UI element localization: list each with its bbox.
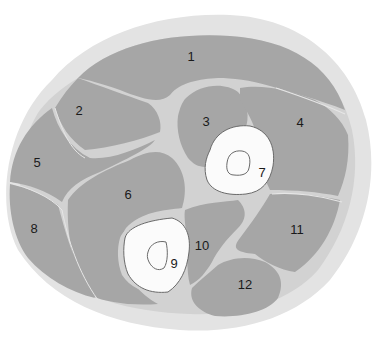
cross-section-diagram: 1 2 3 4 5 6 7 8 9 10 11 12 [0, 0, 380, 338]
label-3: 3 [202, 114, 209, 129]
label-12: 12 [238, 277, 252, 292]
label-2: 2 [75, 103, 82, 118]
label-6: 6 [124, 187, 131, 202]
diagram-canvas: 1 2 3 4 5 6 7 8 9 10 11 12 [0, 0, 380, 338]
label-10: 10 [195, 238, 209, 253]
label-5: 5 [33, 155, 40, 170]
label-9: 9 [170, 256, 177, 271]
label-1: 1 [187, 49, 194, 64]
bone-9 [124, 218, 190, 292]
label-11: 11 [290, 222, 304, 237]
label-8: 8 [30, 221, 37, 236]
label-7: 7 [258, 165, 265, 180]
label-4: 4 [296, 115, 303, 130]
